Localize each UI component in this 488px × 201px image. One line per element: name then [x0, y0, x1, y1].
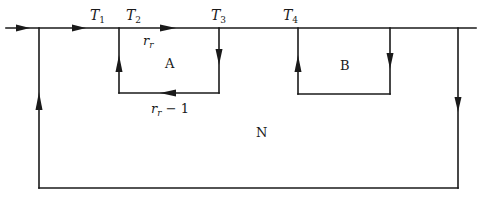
label-t2: T2 — [126, 7, 141, 25]
arrow-down-icon — [387, 53, 394, 69]
arrow-right-icon — [72, 25, 86, 32]
arrow-up-icon — [36, 92, 43, 110]
label-t1: T1 — [90, 7, 105, 25]
label-loop-a: A — [164, 56, 175, 71]
arrow-up-icon — [295, 55, 302, 72]
label-rr-forward: rr — [143, 33, 154, 50]
label-t3: T3 — [211, 7, 226, 25]
label-outer-loop-n: N — [256, 125, 267, 140]
label-rr-minus-one: rr − 1 — [151, 101, 189, 118]
arrow-down-icon — [455, 97, 462, 112]
flow-diagram: T1 T2 T3 T4 rr rr − 1 A B N — [0, 0, 488, 201]
arrow-right-icon — [16, 25, 30, 32]
arrow-down-icon — [216, 49, 223, 65]
arrow-left-icon — [160, 90, 176, 97]
arrow-up-icon — [116, 55, 123, 72]
label-t4: T4 — [283, 7, 298, 25]
label-loop-b: B — [340, 58, 350, 73]
arrow-right-icon — [160, 25, 176, 32]
